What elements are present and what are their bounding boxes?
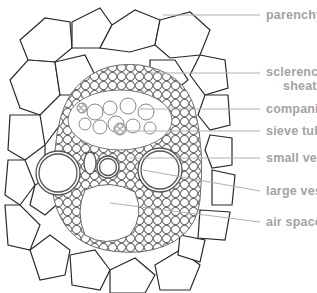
label-companion-cell: companion cell xyxy=(266,103,317,116)
companion-cell-cluster xyxy=(114,123,126,135)
label-parenchyma: parenchyma xyxy=(266,9,317,22)
air-space-cavity xyxy=(80,184,139,241)
vascular-bundle-diagram: parenchyma sclerenchyma sheath companion… xyxy=(0,0,317,293)
label-sclerenchyma: sclerenchyma xyxy=(266,66,317,79)
label-sieve-tube: sieve tube xyxy=(266,125,317,138)
label-sheath: sheath xyxy=(283,80,317,93)
label-air-space: air space xyxy=(266,216,317,229)
label-small-vessels: small vessels xyxy=(266,152,317,165)
cell-drawing xyxy=(0,0,317,293)
companion-cell-cluster xyxy=(77,103,87,113)
label-large-vessel: large vessel xyxy=(266,185,317,198)
